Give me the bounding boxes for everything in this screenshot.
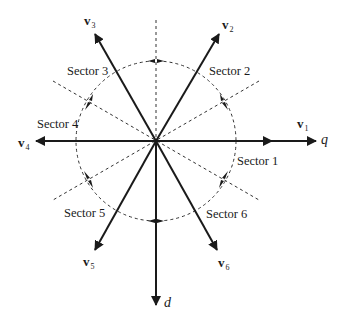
- vector-v6: [156, 141, 217, 250]
- label-v3-sub: 3: [92, 21, 96, 30]
- label-v5: v5: [83, 255, 95, 271]
- space-vector-diagram: [0, 0, 345, 323]
- label-v3-base: v: [84, 13, 91, 28]
- arc-arrow-upper-right: [220, 94, 228, 110]
- label-v6: v6: [218, 256, 230, 272]
- label-v5-sub: 5: [91, 262, 95, 271]
- label-v1-sub: 1: [305, 124, 309, 133]
- arc-arrow-lower-right: [219, 171, 228, 188]
- label-v2-sub: 2: [230, 25, 234, 34]
- vector-v3: [95, 34, 156, 141]
- label-v6-base: v: [218, 255, 225, 270]
- label-v1-base: v: [297, 116, 304, 131]
- label-sector-5: Sector 5: [64, 207, 105, 220]
- label-v6-sub: 6: [226, 263, 230, 272]
- label-sector-6: Sector 6: [206, 208, 247, 221]
- label-sector-1: Sector 1: [237, 155, 278, 168]
- label-v4-sub: 4: [26, 143, 30, 152]
- axes: [156, 141, 316, 305]
- label-v4: v4: [18, 136, 30, 152]
- label-v2: v2: [222, 18, 234, 34]
- label-sector-2: Sector 2: [209, 65, 250, 78]
- label-v3: v3: [84, 14, 96, 30]
- vector-v2: [156, 34, 219, 141]
- label-v4-base: v: [18, 135, 25, 150]
- label-sector-3: Sector 3: [67, 65, 108, 78]
- label-v2-base: v: [222, 17, 229, 32]
- label-v5-base: v: [83, 254, 90, 269]
- label-v1: v1: [297, 117, 309, 133]
- arc-arrow-upper-left: [85, 94, 93, 110]
- label-q-axis: q: [321, 133, 328, 147]
- vector-v5: [95, 141, 156, 250]
- label-d-axis: d: [164, 296, 171, 310]
- label-sector-4: Sector 4: [37, 118, 78, 131]
